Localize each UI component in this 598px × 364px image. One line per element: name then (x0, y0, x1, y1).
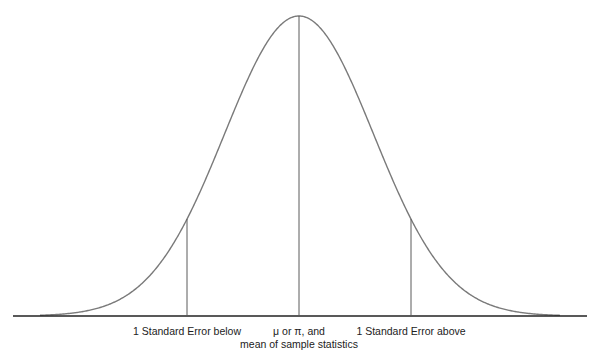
label-mean-line2: mean of sample statistics (219, 338, 379, 351)
bell-curve (40, 16, 560, 315)
label-se-above: 1 Standard Error above (331, 325, 491, 338)
normal-curve-diagram (0, 0, 598, 364)
